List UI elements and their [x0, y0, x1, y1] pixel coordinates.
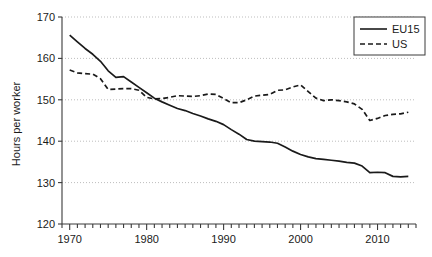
x-tick-label-2000: 2000	[288, 233, 312, 245]
legend-label-us: US	[392, 38, 407, 50]
y-tick-label-130: 130	[37, 177, 55, 189]
x-tick-label-group: 19701980199020002010	[57, 233, 389, 245]
series-group	[70, 35, 409, 177]
x-tick-label-1980: 1980	[134, 233, 158, 245]
legend-label-eu15: EU15	[392, 23, 420, 35]
x-tick-label-1970: 1970	[57, 233, 81, 245]
x-tick-label-2010: 2010	[365, 233, 389, 245]
y-tick-label-group: 120130140150160170	[37, 11, 55, 230]
x-tick-group	[62, 224, 416, 230]
y-tick-label-170: 170	[37, 11, 55, 23]
y-tick-group	[58, 17, 62, 224]
y-axis-title: Hours per worker	[10, 81, 22, 166]
series-line-eu15	[70, 35, 409, 177]
chart-svg: 120130140150160170 19701980199020002010 …	[0, 0, 432, 257]
y-tick-label-140: 140	[37, 135, 55, 147]
y-tick-label-150: 150	[37, 94, 55, 106]
y-tick-label-120: 120	[37, 218, 55, 230]
y-tick-label-160: 160	[37, 52, 55, 64]
chart-legend: EU15 US	[354, 17, 425, 55]
line-chart: 120130140150160170 19701980199020002010 …	[0, 0, 432, 257]
x-tick-label-1990: 1990	[211, 233, 235, 245]
